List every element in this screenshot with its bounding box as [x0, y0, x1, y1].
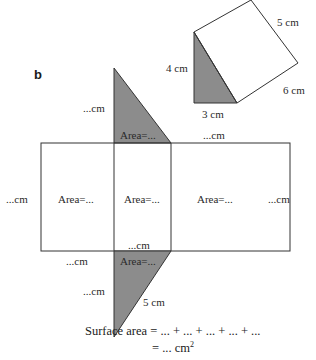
left-edge-label: ...cm — [6, 194, 28, 205]
rect-left-area-label: Area=... — [58, 194, 94, 205]
top-triangle-side-label: ...cm — [83, 103, 105, 114]
bottom-triangle-side-label: ...cm — [83, 286, 105, 297]
surface-area-formula-line1: Surface area = ... + ... + ... + ... + .… — [85, 325, 260, 338]
surface-area-formula-line2: = ... cm2 — [152, 342, 194, 355]
top-triangle-area-label: Area=... — [120, 130, 156, 141]
prism-length-label: 6 cm — [283, 85, 305, 96]
rect-right-area-label: Area=... — [197, 194, 233, 205]
top-edge-label: ...cm — [203, 130, 225, 141]
prism-height-label: 4 cm — [166, 63, 188, 74]
prism-hypotenuse-label: 5 cm — [277, 17, 299, 28]
prism-base-label: 3 cm — [202, 109, 224, 120]
part-label: b — [34, 68, 42, 81]
formula-exponent: 2 — [190, 340, 194, 349]
rect-middle-area-label: Area=... — [124, 194, 160, 205]
middle-bottom-label: ...cm — [128, 240, 150, 251]
right-edge-label: ...cm — [268, 194, 290, 205]
bottom-triangle-area-label: Area=... — [120, 256, 156, 267]
formula-result: = ... cm — [152, 341, 190, 355]
bottom-triangle-hypotenuse-label: 5 cm — [143, 297, 165, 308]
bottom-left-label: ...cm — [66, 256, 88, 267]
